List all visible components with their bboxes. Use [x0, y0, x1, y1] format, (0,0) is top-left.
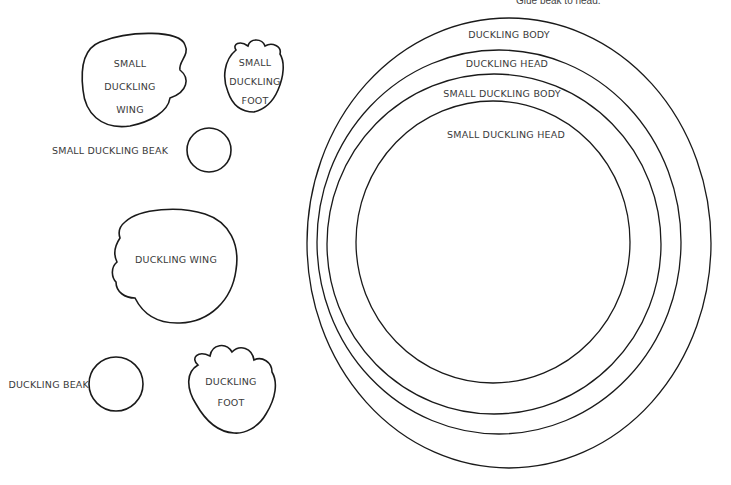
small-duckling-wing: SMALL DUCKLING WING	[82, 33, 186, 126]
instruction-note: Glue beak to head.	[516, 0, 601, 6]
svg-text:SMALL: SMALL	[114, 58, 147, 69]
duckling-foot: DUCKLING FOOT	[189, 346, 276, 434]
svg-text:DUCKLING BEAK: DUCKLING BEAK	[8, 379, 89, 390]
pattern-sheet: Glue beak to head. DUCKLING BODY DUCKLIN…	[0, 0, 731, 485]
duckling-beak: DUCKLING BEAK	[8, 357, 143, 411]
svg-text:DUCKLING: DUCKLING	[205, 376, 256, 387]
svg-text:SMALL: SMALL	[239, 57, 272, 68]
svg-text:WING: WING	[116, 104, 143, 115]
ring-label: DUCKLING HEAD	[466, 58, 548, 69]
svg-text:DUCKLING: DUCKLING	[104, 81, 155, 92]
ring-label: SMALL DUCKLING HEAD	[447, 129, 565, 140]
svg-text:DUCKLING WING: DUCKLING WING	[135, 254, 217, 265]
ring-duckling-body: DUCKLING BODY	[307, 18, 711, 468]
ring-label: DUCKLING BODY	[468, 29, 550, 40]
small-duckling-beak: SMALL DUCKLING BEAK	[52, 128, 231, 172]
svg-text:FOOT: FOOT	[217, 397, 244, 408]
ring-small-duckling-head: SMALL DUCKLING HEAD	[356, 101, 630, 383]
ring-duckling-head: DUCKLING HEAD	[317, 50, 681, 434]
svg-text:SMALL DUCKLING BEAK: SMALL DUCKLING BEAK	[52, 145, 169, 156]
ring-small-duckling-body: SMALL DUCKLING BODY	[327, 74, 661, 414]
ring-label: SMALL DUCKLING BODY	[443, 88, 560, 99]
svg-text:FOOT: FOOT	[241, 95, 268, 106]
svg-text:DUCKLING: DUCKLING	[229, 76, 280, 87]
duckling-wing: DUCKLING WING	[112, 209, 236, 323]
small-duckling-foot: SMALL DUCKLING FOOT	[225, 40, 283, 112]
